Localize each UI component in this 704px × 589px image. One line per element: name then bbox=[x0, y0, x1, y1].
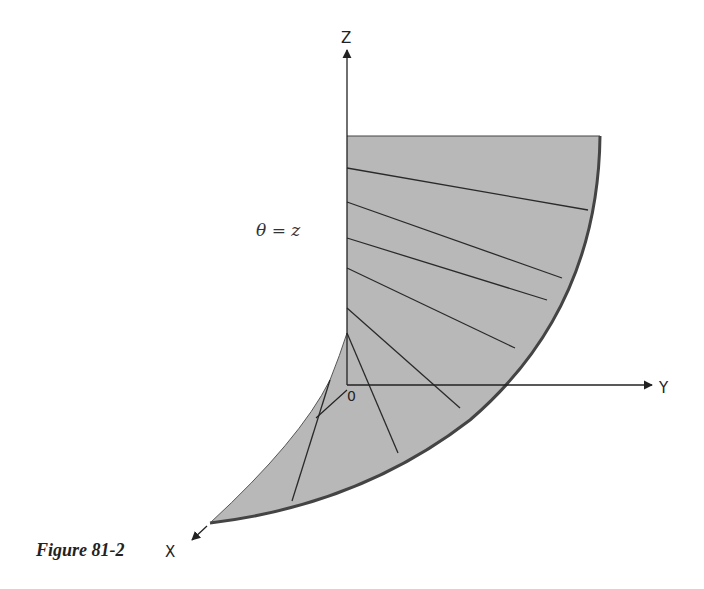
helicoid-diagram: Z Y X 0 θ = z Figure 81-2 bbox=[0, 0, 704, 589]
z-axis-label: Z bbox=[341, 29, 351, 47]
equation-label: θ = z bbox=[256, 220, 301, 240]
figure-caption: Figure 81-2 bbox=[35, 540, 125, 560]
x-axis bbox=[192, 526, 207, 540]
origin-label: 0 bbox=[347, 388, 356, 404]
x-axis-label: X bbox=[165, 543, 175, 561]
y-axis-label: Y bbox=[658, 379, 669, 397]
